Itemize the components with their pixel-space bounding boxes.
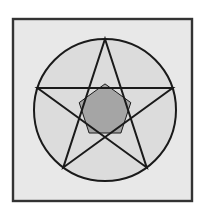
figure-root: Pentagram inscribed in a circle Geometri… [0, 0, 204, 214]
pentagram-figure: Pentagram inscribed in a circle Geometri… [0, 0, 204, 214]
